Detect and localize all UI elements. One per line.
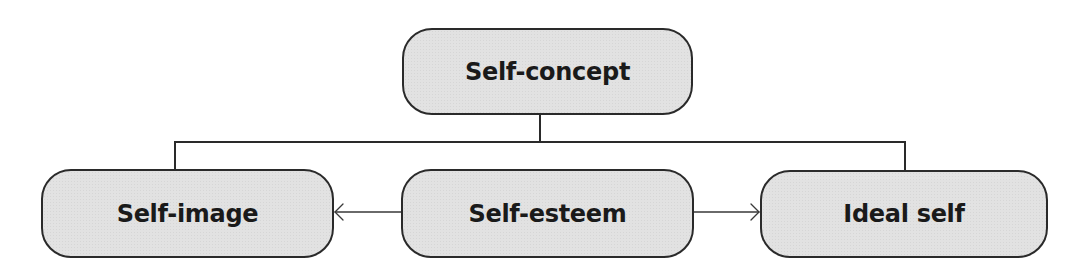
self-concept-diagram: Self-concept Self-image Self-esteem Idea… — [0, 0, 1088, 279]
node-ideal-self: Ideal self — [760, 170, 1048, 258]
node-self-concept: Self-concept — [402, 28, 693, 115]
node-self-esteem: Self-esteem — [401, 169, 694, 258]
node-label: Self-esteem — [468, 200, 626, 228]
node-self-image: Self-image — [41, 169, 334, 258]
node-label: Self-image — [117, 200, 259, 228]
node-label: Self-concept — [465, 58, 630, 86]
node-label: Ideal self — [843, 200, 964, 228]
